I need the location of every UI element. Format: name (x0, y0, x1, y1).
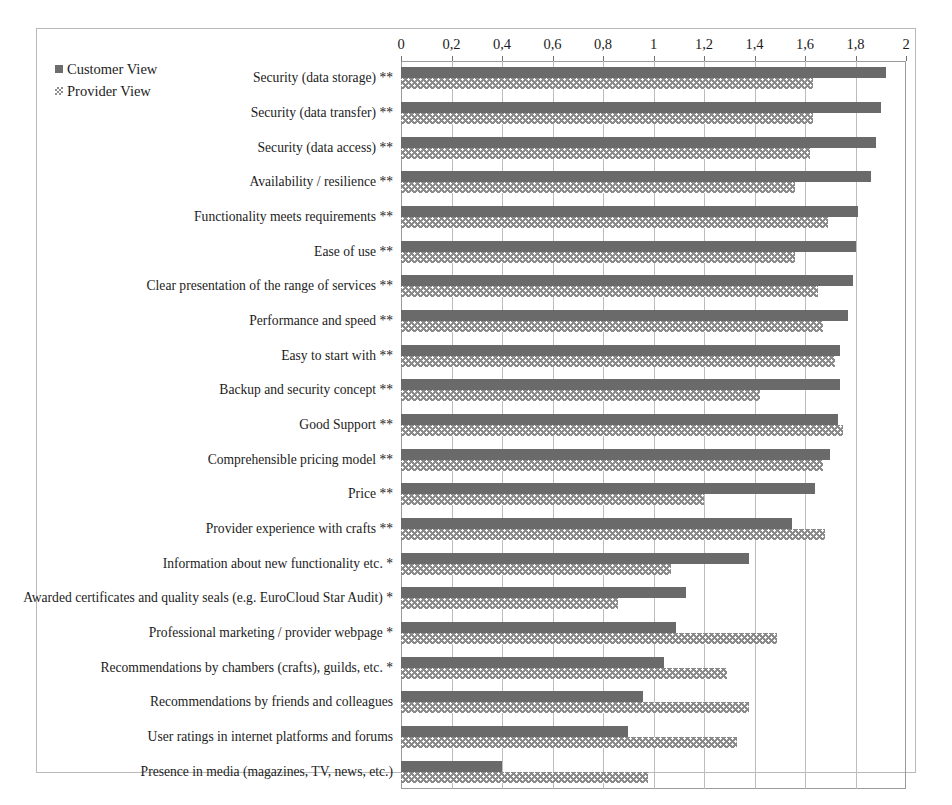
bar-row: Easy to start with ** (401, 338, 906, 373)
legend-swatch-provider-icon (55, 87, 63, 95)
category-label: Performance and speed ** (249, 314, 393, 328)
bar-group (401, 241, 906, 263)
bar-customer-view (401, 241, 856, 252)
bar-provider-view (401, 286, 818, 297)
bar-provider-view (401, 356, 835, 367)
bar-row: Recommendations by chambers (crafts), gu… (401, 650, 906, 685)
bar-provider-view (401, 217, 828, 228)
category-label: Ease of use ** (314, 245, 393, 259)
bar-row: Security (data access) ** (401, 130, 906, 165)
x-axis-tick-label: 1,4 (745, 36, 763, 53)
bar-customer-view (401, 691, 643, 702)
category-label: Provider experience with crafts ** (206, 522, 393, 536)
bar-provider-view (401, 702, 749, 713)
bar-group (401, 483, 906, 505)
category-label: Information about new functionality etc.… (163, 557, 393, 571)
category-label: Presence in media (magazines, TV, news, … (141, 765, 393, 779)
bar-group (401, 691, 906, 713)
bar-provider-view (401, 113, 813, 124)
bar-customer-view (401, 171, 871, 182)
category-label: Easy to start with ** (281, 349, 393, 363)
bar-customer-view (401, 414, 838, 425)
bar-provider-view (401, 633, 777, 644)
bar-provider-view (401, 494, 704, 505)
x-axis-tick-label: 2 (902, 36, 909, 53)
category-label: Security (data storage) ** (253, 71, 393, 85)
bar-customer-view (401, 345, 840, 356)
bar-provider-view (401, 78, 813, 89)
category-label: Availability / resilience ** (249, 175, 393, 189)
bar-group (401, 726, 906, 748)
bar-group (401, 206, 906, 228)
x-axis-tick-label: 0,6 (543, 36, 561, 53)
category-label: Price ** (348, 487, 393, 501)
bar-row: Functionality meets requirements ** (401, 200, 906, 235)
bar-row: Performance and speed ** (401, 304, 906, 339)
bar-row: Information about new functionality etc.… (401, 546, 906, 581)
bar-provider-view (401, 564, 671, 575)
bar-row: Availability / resilience ** (401, 165, 906, 200)
bar-customer-view (401, 726, 628, 737)
legend-label-customer-view: Customer View (67, 62, 157, 77)
bar-provider-view (401, 321, 823, 332)
bar-row: Backup and security concept ** (401, 373, 906, 408)
bar-group (401, 761, 906, 783)
bar-provider-view (401, 737, 737, 748)
bar-customer-view (401, 761, 502, 772)
x-axis-tick-label: 0 (397, 36, 404, 53)
bar-group (401, 275, 906, 297)
bar-provider-view (401, 182, 795, 193)
bar-group (401, 67, 906, 89)
x-axis-tick-label: 1,2 (695, 36, 713, 53)
x-axis-tick-label: 1,6 (796, 36, 814, 53)
bar-customer-view (401, 449, 830, 460)
bar-row: Recommendations by friends and colleague… (401, 685, 906, 720)
bar-row: Clear presentation of the range of servi… (401, 269, 906, 304)
category-label: Awarded certificates and quality seals (… (23, 591, 393, 605)
legend-item-provider-view: Provider View (55, 80, 245, 102)
bar-customer-view (401, 587, 686, 598)
category-label: Recommendations by chambers (crafts), gu… (100, 661, 393, 675)
bar-group (401, 171, 906, 193)
bar-group (401, 657, 906, 679)
bar-customer-view (401, 518, 792, 529)
bar-group (401, 102, 906, 124)
bar-group (401, 518, 906, 540)
bar-group (401, 622, 906, 644)
category-label: Security (data transfer) ** (251, 106, 393, 120)
bar-provider-view (401, 148, 810, 159)
bar-provider-view (401, 598, 618, 609)
bar-row: User ratings in internet platforms and f… (401, 720, 906, 755)
chart-figure: Customer View Provider View 00,20,40,60,… (36, 28, 916, 773)
category-label: Good Support ** (299, 418, 393, 432)
category-label: Comprehensible pricing model ** (208, 453, 393, 467)
category-label: Clear presentation of the range of servi… (147, 279, 393, 293)
bar-group (401, 345, 906, 367)
bar-provider-view (401, 252, 795, 263)
bar-row: Security (data storage) ** (401, 61, 906, 96)
category-label: Security (data access) ** (258, 141, 394, 155)
bar-row: Good Support ** (401, 408, 906, 443)
bar-row: Security (data transfer) ** (401, 96, 906, 131)
bar-customer-view (401, 137, 876, 148)
x-axis-tick-label: 0,2 (442, 36, 460, 53)
bar-row: Price ** (401, 477, 906, 512)
category-label: Recommendations by friends and colleague… (150, 695, 393, 709)
bar-customer-view (401, 67, 886, 78)
bar-group (401, 137, 906, 159)
plot-area: 00,20,40,60,811,21,41,61,82 Security (da… (401, 61, 906, 789)
bar-customer-view (401, 622, 676, 633)
category-label: Professional marketing / provider webpag… (149, 626, 393, 640)
bar-row: Ease of use ** (401, 234, 906, 269)
bar-customer-view (401, 206, 858, 217)
bar-group (401, 310, 906, 332)
bar-group (401, 587, 906, 609)
bar-row: Professional marketing / provider webpag… (401, 616, 906, 651)
x-axis-tick-label: 0,4 (493, 36, 511, 53)
bar-provider-view (401, 772, 648, 783)
bar-customer-view (401, 483, 815, 494)
bar-provider-view (401, 390, 760, 401)
bar-group (401, 449, 906, 471)
bar-group (401, 379, 906, 401)
legend-label-provider-view: Provider View (67, 84, 151, 99)
